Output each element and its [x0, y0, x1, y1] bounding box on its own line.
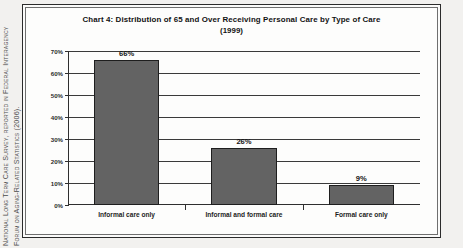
y-tick-mark	[65, 51, 69, 52]
figure-frame: Chart 4: Distribution of 65 and Over Rec…	[22, 4, 441, 238]
citation-line-2: Forum on Aging-Related Statistics (2006)…	[14, 106, 21, 246]
y-tick-label: 70%	[51, 48, 63, 55]
y-tick-label: 20%	[51, 158, 63, 165]
x-category-label: Informal care only	[98, 211, 155, 218]
y-tick-label: 10%	[51, 180, 63, 187]
bar: 9%Formal care only	[329, 185, 394, 205]
plot-area: 0%10%20%30%40%50%60%70% 66%Informal care…	[68, 51, 420, 205]
y-tick-mark	[65, 205, 69, 206]
y-tick-label: 60%	[51, 70, 63, 77]
bar-value-label: 9%	[356, 174, 367, 183]
figure-inner-border: Chart 4: Distribution of 65 and Over Rec…	[25, 7, 438, 235]
bar-value-label: 26%	[236, 137, 251, 146]
y-tick-label: 30%	[51, 136, 63, 143]
chart-subtitle: (1999)	[26, 25, 437, 36]
y-tick-mark	[65, 139, 69, 140]
bar-value-label: 66%	[119, 49, 134, 58]
y-tick-label: 50%	[51, 92, 63, 99]
page-title: Chart 4: Distribution of 65 and Over Rec…	[26, 14, 437, 25]
x-tick-mark	[185, 205, 186, 210]
y-tick-label: 0%	[54, 202, 63, 209]
y-tick-mark	[65, 161, 69, 162]
bar: 26%Informal and formal care	[211, 148, 276, 205]
x-category-label: Formal care only	[335, 211, 388, 218]
x-tick-mark	[303, 205, 304, 210]
y-tick-label: 40%	[51, 114, 63, 121]
y-axis-line	[68, 51, 69, 205]
y-tick-mark	[65, 183, 69, 184]
x-category-label: Informal and formal care	[206, 211, 283, 218]
y-tick-mark	[65, 95, 69, 96]
y-tick-mark	[65, 73, 69, 74]
bar: 66%Informal care only	[94, 60, 159, 205]
chart-title-block: Chart 4: Distribution of 65 and Over Rec…	[26, 14, 437, 36]
citation-line-1: National Long Term Care Survey, reported…	[3, 27, 10, 246]
y-tick-mark	[65, 117, 69, 118]
